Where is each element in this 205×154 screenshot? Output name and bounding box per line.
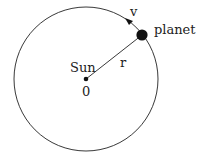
sun-label: Sun — [70, 60, 96, 75]
sun-dot — [84, 77, 89, 82]
origin-label: 0 — [82, 84, 90, 99]
radius-label: r — [120, 55, 127, 70]
orbit-diagram: v planet Sun r 0 — [0, 0, 205, 154]
planet-label: planet — [154, 22, 196, 37]
planet-dot — [136, 29, 147, 40]
velocity-label: v — [129, 4, 138, 19]
